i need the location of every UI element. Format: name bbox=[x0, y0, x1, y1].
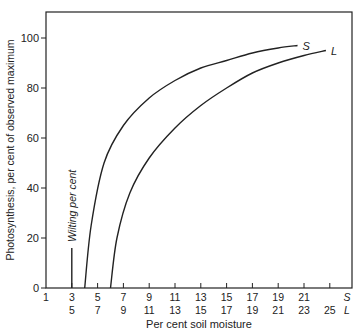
x-tick-label-s: 11 bbox=[170, 291, 181, 303]
y-tick-label: 80 bbox=[27, 82, 39, 94]
x-tick-label-l: 5 bbox=[69, 304, 75, 316]
x-tick-label-s: 15 bbox=[221, 291, 233, 303]
x-tick-label-l: 17 bbox=[221, 304, 233, 316]
x-tick-label-l: 7 bbox=[95, 304, 101, 316]
y-tick-label: 40 bbox=[27, 182, 39, 194]
y-axis: 020406080100 bbox=[21, 32, 46, 294]
x-tick-label-s: 5 bbox=[95, 291, 101, 303]
x-tick-label-s: 17 bbox=[247, 291, 259, 303]
x-tick-label-s: 19 bbox=[272, 291, 284, 303]
x-tick-label-l: 11 bbox=[144, 304, 155, 316]
x-axis-s-label: S bbox=[343, 291, 350, 303]
x-tick-label-s: 3 bbox=[69, 291, 75, 303]
curve-S bbox=[85, 46, 298, 289]
curve-L bbox=[111, 51, 326, 289]
y-tick-label: 0 bbox=[33, 282, 39, 294]
x-tick-label-l: 15 bbox=[195, 304, 207, 316]
photosynthesis-chart: 020406080100 135791113151719215791113151… bbox=[0, 0, 364, 335]
x-tick-label-s: 9 bbox=[146, 291, 152, 303]
wilting-label: Wilting per cent bbox=[66, 169, 78, 242]
wilting-annotation: Wilting per cent bbox=[66, 169, 78, 288]
curve-label-S: S bbox=[303, 40, 311, 52]
x-tick-label-l: 13 bbox=[169, 304, 181, 316]
y-tick-label: 100 bbox=[21, 32, 39, 44]
x-tick-label-s: 21 bbox=[298, 291, 310, 303]
x-tick-label-s: 7 bbox=[120, 291, 126, 303]
x-tick-label-l: 19 bbox=[247, 304, 259, 316]
curve-label-L: L bbox=[331, 45, 337, 57]
x-tick-label-s: 1 bbox=[43, 291, 49, 303]
x-axis-l-label: L bbox=[344, 304, 350, 316]
y-tick-label: 20 bbox=[27, 232, 39, 244]
x-tick-label-s: 13 bbox=[195, 291, 207, 303]
y-tick-label: 60 bbox=[27, 132, 39, 144]
curves: SL bbox=[85, 40, 337, 289]
x-tick-label-l: 9 bbox=[120, 304, 126, 316]
x-tick-label-l: 21 bbox=[272, 304, 284, 316]
x-tick-label-l: 23 bbox=[298, 304, 310, 316]
plot-frame bbox=[46, 12, 352, 288]
y-axis-label: Photosynthesis, per cent of observed max… bbox=[4, 39, 16, 260]
x-tick-label-l: 25 bbox=[324, 304, 336, 316]
x-axis-label: Per cent soil moisture bbox=[146, 318, 252, 330]
